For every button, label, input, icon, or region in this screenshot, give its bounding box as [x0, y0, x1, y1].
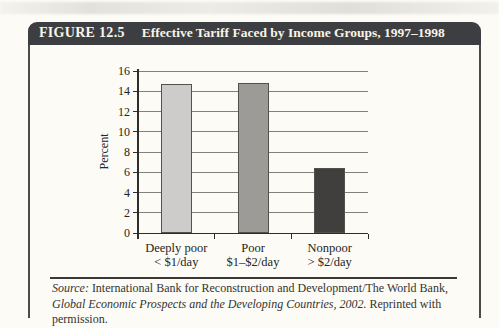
y-tick-label: 14 [106, 84, 130, 98]
y-tick-label: 16 [106, 64, 130, 78]
bar-1 [161, 84, 192, 233]
y-tick-label: 4 [106, 186, 130, 200]
y-tick-label: 12 [106, 105, 130, 119]
y-axis-title: Percent [97, 122, 112, 182]
bar-2 [238, 83, 269, 233]
x-category-label-line: > $2/day [275, 255, 385, 269]
y-tick-label: 0 [106, 226, 130, 240]
x-category-label-line: Nonpoor [275, 241, 385, 255]
x-category-label: Nonpoor> $2/day [275, 241, 385, 269]
y-tick-label: 2 [106, 206, 130, 220]
x-axis-tick [214, 234, 215, 239]
x-axis-tick [291, 234, 292, 239]
y-axis [137, 69, 139, 239]
bar-3 [314, 168, 345, 233]
gridline [138, 71, 368, 72]
x-axis-tick [368, 234, 369, 239]
